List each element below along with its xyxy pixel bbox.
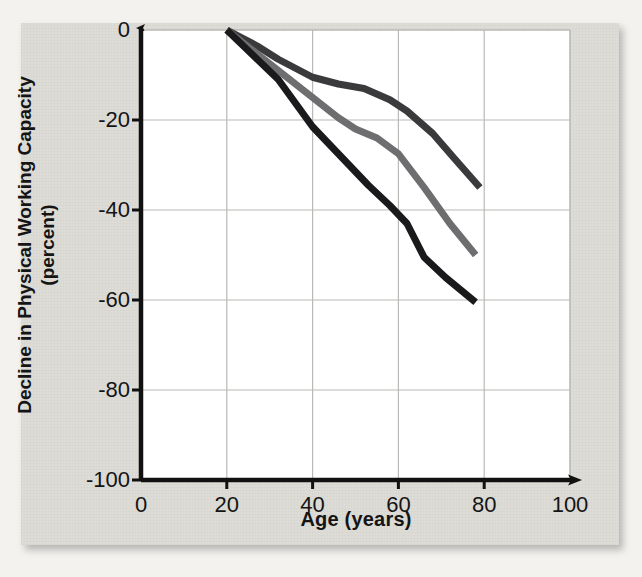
x-tick-label-0: 0: [135, 492, 147, 518]
x-tick-label-1: 20: [215, 492, 239, 518]
y-tick-label-4: -80: [98, 377, 130, 403]
x-tick-label-5: 100: [552, 492, 589, 518]
y-tick-label-1: -20: [98, 107, 130, 133]
y-tick-label-3: -60: [98, 287, 130, 313]
y-tick-label-5: -100: [86, 467, 130, 493]
x-axis-title: Age (years): [300, 508, 411, 531]
y-tick-label-0: 0: [118, 17, 130, 43]
scanned-page-background: 0-20-40-60-80-100 020406080100 Age (year…: [0, 0, 642, 577]
x-tick-label-4: 80: [472, 492, 496, 518]
plot-area-background: [141, 30, 570, 480]
y-axis-title: Decline in Physical Working Capacity (pe…: [13, 35, 59, 455]
y-tick-label-2: -40: [98, 197, 130, 223]
